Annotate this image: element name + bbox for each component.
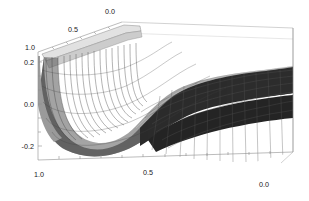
- y-tick-label-0-0: 0.0: [105, 7, 115, 16]
- surface-top-ribbon: [42, 25, 141, 61]
- x-tick-label-0-5: 0.5: [143, 168, 153, 177]
- surface-mesh: [36, 25, 293, 163]
- x-tick-label-0-0: 0.0: [259, 180, 269, 189]
- surface-plot-figure: 0.2 0.0 -0.2 1.0 0.5 0.0 1.0 0.5 0.0: [0, 0, 309, 201]
- z-tick-label-0-0: 0.0: [24, 100, 34, 109]
- z-tick-label-0-2: 0.2: [24, 58, 34, 67]
- x-tick-label-1-0: 1.0: [34, 170, 44, 179]
- surface-plot-canvas: 0.2 0.0 -0.2 1.0 0.5 0.0 1.0 0.5 0.0: [0, 0, 309, 201]
- y-tick-label-1-0: 1.0: [25, 43, 35, 52]
- z-tick-label-neg-0-2: -0.2: [22, 142, 34, 151]
- y-tick-label-0-5: 0.5: [68, 25, 78, 34]
